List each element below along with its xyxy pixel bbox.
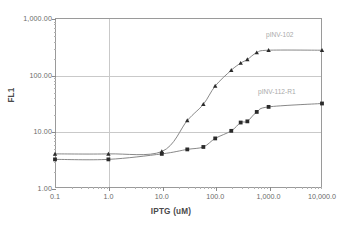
- x-axis-tick-label: 1,000.0: [257, 192, 281, 201]
- x-axis-minor-tick: [295, 187, 296, 189]
- x-axis-minor-tick: [318, 187, 319, 189]
- y-axis-tick: [52, 19, 56, 20]
- y-axis-minor-tick: [54, 145, 56, 146]
- x-axis-tick-label: 0.1: [50, 192, 60, 201]
- x-axis-tick-label: 10,000.0: [308, 192, 336, 201]
- x-axis-minor-tick: [179, 187, 180, 189]
- x-axis-minor-tick: [135, 187, 136, 189]
- chart-container: FL1 IPTG (uM) 1.0010.00100.001,000.00 0.…: [0, 0, 342, 232]
- gridline-horizontal: [56, 76, 321, 77]
- x-axis-minor-tick: [307, 187, 308, 189]
- y-axis-minor-tick: [54, 28, 56, 29]
- x-axis-minor-tick: [195, 187, 196, 189]
- x-axis-minor-tick: [93, 187, 94, 189]
- x-axis-minor-tick: [321, 187, 322, 189]
- x-axis-minor-tick: [242, 187, 243, 189]
- y-axis-minor-tick: [54, 149, 56, 150]
- x-axis-minor-tick: [81, 187, 82, 189]
- x-axis-minor-tick: [101, 187, 102, 189]
- x-axis-minor-tick: [72, 187, 73, 189]
- x-axis-minor-tick: [286, 187, 287, 189]
- y-axis-minor-tick: [54, 24, 56, 25]
- x-axis-minor-tick: [315, 187, 316, 189]
- x-axis-minor-tick: [88, 187, 89, 189]
- x-axis-tick: [109, 187, 110, 191]
- x-axis-tick: [163, 187, 164, 191]
- x-axis-tick-label: 1.0: [103, 192, 113, 201]
- x-axis-minor-tick: [200, 187, 201, 189]
- x-axis-minor-tick: [302, 187, 303, 189]
- y-axis-minor-tick: [54, 36, 56, 37]
- y-axis-minor-tick: [54, 42, 56, 43]
- x-axis-minor-tick: [125, 187, 126, 189]
- y-axis-tick-label: 100.00: [29, 71, 52, 80]
- y-axis-minor-tick: [54, 105, 56, 106]
- y-axis-minor-tick: [54, 141, 56, 142]
- y-axis-tick-label: 1,000.00: [23, 14, 52, 23]
- x-axis-minor-tick: [248, 187, 249, 189]
- y-axis-minor-tick: [54, 155, 56, 156]
- y-axis-minor-tick: [54, 88, 56, 89]
- x-axis-minor-tick: [264, 187, 265, 189]
- x-axis-minor-tick: [254, 187, 255, 189]
- x-axis-minor-tick: [142, 187, 143, 189]
- y-axis-title: FL1: [7, 87, 16, 102]
- y-axis-tick: [52, 132, 56, 133]
- x-axis-minor-tick: [232, 187, 233, 189]
- y-axis-minor-tick: [54, 32, 56, 33]
- x-axis-minor-tick: [258, 187, 259, 189]
- x-axis-tick-label: 100.0: [206, 192, 224, 201]
- x-axis-tick: [270, 187, 271, 191]
- x-axis-minor-tick: [107, 187, 108, 189]
- x-axis-minor-tick: [214, 187, 215, 189]
- x-axis-minor-tick: [211, 187, 212, 189]
- x-axis-minor-tick: [311, 187, 312, 189]
- y-axis-minor-tick: [54, 81, 56, 82]
- y-axis-minor-tick: [54, 22, 56, 23]
- x-axis-title: IPTG (uM): [0, 207, 342, 216]
- y-axis-tick-label: 10.00: [34, 127, 53, 136]
- y-axis-minor-tick: [54, 138, 56, 139]
- x-axis-minor-tick: [155, 187, 156, 189]
- y-axis-minor-tick: [54, 115, 56, 116]
- y-axis-minor-tick: [54, 49, 56, 50]
- y-axis-minor-tick: [54, 59, 56, 60]
- y-axis-tick: [52, 76, 56, 77]
- x-axis-minor-tick: [261, 187, 262, 189]
- y-axis-minor-tick: [54, 84, 56, 85]
- y-axis-minor-tick: [54, 135, 56, 136]
- y-axis-minor-tick: [54, 162, 56, 163]
- x-axis-minor-tick: [188, 187, 189, 189]
- y-axis-minor-tick: [54, 172, 56, 173]
- x-axis-minor-tick: [104, 187, 105, 189]
- x-axis-minor-tick: [151, 187, 152, 189]
- series-label-pinv-102: pINV-102: [266, 31, 294, 38]
- y-axis-minor-tick: [54, 93, 56, 94]
- y-axis-tick: [52, 189, 56, 190]
- gridline-horizontal: [56, 132, 321, 133]
- x-axis-minor-tick: [267, 187, 268, 189]
- x-axis-minor-tick: [160, 187, 161, 189]
- x-axis-minor-tick: [204, 187, 205, 189]
- plot-area: [55, 18, 322, 188]
- x-axis-minor-tick: [208, 187, 209, 189]
- y-axis-minor-tick: [54, 98, 56, 99]
- x-axis-minor-tick: [158, 187, 159, 189]
- x-axis-tick-label: 10.0: [155, 192, 169, 201]
- x-axis-tick: [216, 187, 217, 191]
- series-label-pinv-112-r1: pINV-112-R1: [258, 88, 296, 95]
- x-axis-minor-tick: [147, 187, 148, 189]
- gridline-vertical: [109, 19, 110, 187]
- y-axis-minor-tick: [54, 78, 56, 79]
- x-axis-minor-tick: [98, 187, 99, 189]
